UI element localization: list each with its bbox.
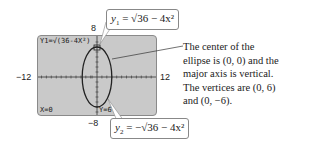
xmin-label: −12 bbox=[16, 72, 31, 82]
description-text: The center of the ellipse is (0, 0) and … bbox=[183, 40, 308, 108]
top-formula-callout: y1 = √36 − 4x² bbox=[106, 9, 179, 30]
description-line: major axis is vertical. bbox=[183, 67, 308, 81]
cursor-y-readout: Y=6 bbox=[99, 106, 112, 114]
description-leader-line bbox=[112, 46, 183, 59]
y1-expression: = √36 − 4x² bbox=[122, 12, 174, 24]
ymin-label: −8 bbox=[88, 118, 98, 128]
description-line: The vertices are (0, 6) bbox=[183, 81, 308, 95]
ymax-label: 8 bbox=[91, 23, 96, 33]
bottom-formula-callout: y2 = −√36 − 4x² bbox=[110, 118, 189, 139]
xmax-label: 12 bbox=[160, 72, 170, 82]
description-line: The center of the bbox=[183, 40, 308, 54]
y2-expression: = −√36 − 4x² bbox=[126, 121, 184, 133]
cursor-x-readout: X=0 bbox=[40, 106, 53, 114]
y1-subscript: 1 bbox=[116, 19, 120, 27]
equation-display: Y1=√(36-4X²) bbox=[40, 37, 91, 45]
y2-subscript: 2 bbox=[120, 128, 124, 136]
description-line: and (0, −6). bbox=[183, 94, 308, 108]
description-line: ellipse is (0, 0) and the bbox=[183, 54, 308, 68]
